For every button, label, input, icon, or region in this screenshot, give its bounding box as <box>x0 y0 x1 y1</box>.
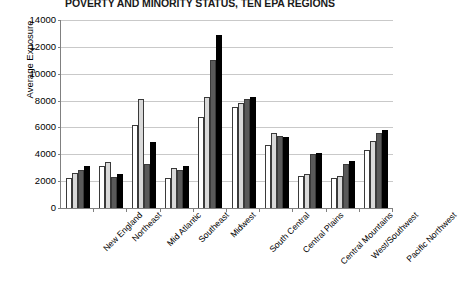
bar-group <box>194 20 227 208</box>
y-axis-tick-label: 8000 <box>4 96 56 106</box>
bar-group <box>161 20 194 208</box>
bar-group <box>94 20 127 208</box>
bar <box>316 153 322 208</box>
y-axis-tick <box>58 208 61 209</box>
y-axis-tick-label: 12000 <box>4 42 56 52</box>
bar <box>283 137 289 208</box>
bar <box>183 166 189 208</box>
plot-area: 02000400060008000100001200014000 <box>60 20 393 209</box>
bar-group <box>327 20 360 208</box>
bar <box>117 174 123 208</box>
y-axis-tick-label: 0 <box>4 203 56 213</box>
y-axis-tick-label: 6000 <box>4 123 56 133</box>
chart-title: POVERTY AND MINORITY STATUS, TEN EPA REG… <box>0 0 400 9</box>
y-axis-tick-label: 10000 <box>4 69 56 79</box>
bar <box>216 35 222 208</box>
bar <box>349 161 355 208</box>
bar-group <box>227 20 260 208</box>
bar <box>382 130 388 208</box>
y-axis-tick-label: 4000 <box>4 150 56 160</box>
bar-group <box>260 20 293 208</box>
bar-group <box>360 20 393 208</box>
x-axis-tick-label: Mid Atlantic <box>165 210 203 248</box>
bar <box>150 142 156 208</box>
x-axis-tick-label: Midwest <box>228 210 257 239</box>
bar-group <box>293 20 326 208</box>
bar-group <box>61 20 94 208</box>
y-axis-tick-label: 2000 <box>4 176 56 186</box>
x-axis-labels: New EnglandNortheastMid AtlanticSoutheas… <box>60 210 392 285</box>
bar <box>250 97 256 208</box>
y-axis-tick-label: 14000 <box>4 15 56 25</box>
bar-groups <box>61 20 393 208</box>
bar-group <box>127 20 160 208</box>
bar <box>84 166 90 208</box>
